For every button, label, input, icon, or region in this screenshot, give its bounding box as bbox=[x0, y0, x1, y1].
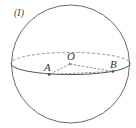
figure-label: (I) bbox=[14, 7, 25, 19]
label-O: O bbox=[67, 50, 75, 62]
segment-OB bbox=[70, 64, 113, 72]
sphere-diagram: (I) O A B bbox=[0, 0, 136, 128]
label-A: A bbox=[43, 61, 51, 73]
point-B bbox=[112, 70, 114, 72]
point-O bbox=[69, 63, 71, 65]
label-B: B bbox=[110, 58, 117, 70]
segment-OA bbox=[49, 64, 70, 75]
point-A bbox=[48, 73, 50, 75]
